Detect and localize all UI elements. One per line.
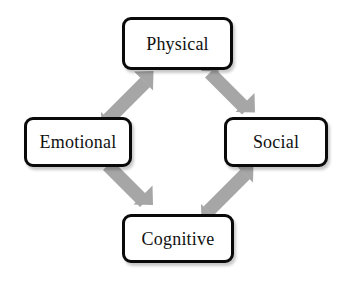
node-label-physical: Physical (146, 35, 209, 53)
node-box-emotional[interactable]: Emotional (24, 117, 132, 167)
node-box-social[interactable]: Social (224, 117, 328, 167)
node-label-social: Social (253, 133, 299, 151)
diagram-canvas: Physical Emotional Social Cognitive (0, 0, 349, 284)
node-box-cognitive[interactable]: Cognitive (122, 214, 234, 263)
node-box-physical[interactable]: Physical (122, 17, 233, 70)
node-label-emotional: Emotional (40, 133, 117, 151)
node-label-cognitive: Cognitive (142, 230, 215, 248)
